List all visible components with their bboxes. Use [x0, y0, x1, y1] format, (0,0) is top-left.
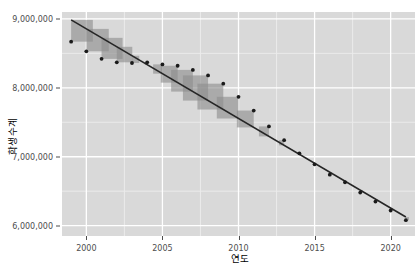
y-tick-label: 7,000,000 — [12, 152, 53, 161]
y-tick-label: 6,000,000 — [12, 221, 53, 230]
data-point — [191, 68, 195, 72]
data-point — [145, 60, 149, 64]
data-point — [161, 62, 165, 66]
x-axis-title: 연도 — [62, 251, 418, 265]
data-point — [297, 151, 301, 155]
x-tick-mark — [86, 236, 87, 240]
data-point — [206, 74, 210, 78]
y-tick-mark — [56, 18, 60, 19]
data-point — [100, 57, 104, 61]
y-tick-label: 9,000,000 — [12, 14, 53, 23]
plot-area-svg — [62, 12, 415, 236]
y-tick-mark — [56, 87, 60, 88]
data-point — [69, 40, 73, 44]
residual-scatter-chart: 학생수계 6,000,0007,000,0008,000,0009,000,00… — [0, 0, 418, 272]
data-point — [115, 60, 119, 64]
x-tick-mark — [239, 236, 240, 240]
x-tick-mark — [391, 236, 392, 240]
data-point — [176, 64, 180, 68]
x-tick-mark — [162, 236, 163, 240]
data-point — [267, 125, 271, 129]
y-tick-mark — [56, 225, 60, 226]
y-tick-mark — [56, 156, 60, 157]
data-point — [328, 173, 332, 177]
plot-panel — [62, 12, 415, 236]
y-tick-label: 8,000,000 — [12, 83, 53, 92]
data-point — [282, 138, 286, 142]
data-point — [221, 82, 225, 86]
x-tick-mark — [315, 236, 316, 240]
data-point — [130, 61, 134, 65]
data-point — [358, 191, 362, 195]
data-point — [84, 49, 88, 53]
data-point — [404, 218, 408, 222]
data-point — [237, 95, 241, 99]
data-point — [389, 209, 393, 213]
data-point — [313, 162, 317, 166]
data-point — [343, 180, 347, 184]
data-point — [252, 109, 256, 113]
x-axis-title-text: 연도 — [231, 253, 249, 264]
y-axis-tick-labels: 6,000,0007,000,0008,000,0009,000,000 — [0, 0, 62, 272]
data-point — [374, 200, 378, 204]
